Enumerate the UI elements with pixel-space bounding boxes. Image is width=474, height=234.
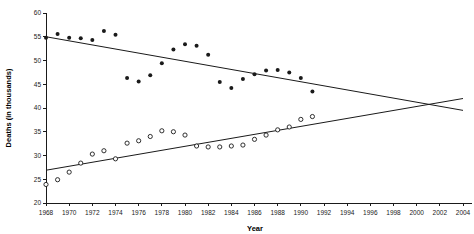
data-point-filled-circles-upper <box>148 73 152 77</box>
x-tick-label: 1998 <box>386 209 401 216</box>
data-point-open-circles-lower <box>160 129 164 133</box>
scatter-plot-svg: 202530354045505560 196819701972197419761… <box>0 0 474 234</box>
y-axis-title: Deaths (in thousands) <box>4 68 13 147</box>
x-tick-label: 1980 <box>178 209 193 216</box>
x-tick-label: 1976 <box>131 209 146 216</box>
data-point-filled-circles-upper <box>160 61 164 65</box>
y-tick-label: 55 <box>34 33 42 40</box>
data-point-filled-circles-upper <box>102 29 106 33</box>
y-tick-label: 30 <box>34 152 42 159</box>
data-point-filled-circles-upper <box>171 48 175 52</box>
data-point-filled-circles-upper <box>125 76 129 80</box>
y-tick-label: 40 <box>34 104 42 111</box>
data-point-filled-circles-upper <box>195 44 199 48</box>
y-tick-label: 35 <box>34 128 42 135</box>
y-tick-label: 45 <box>34 81 42 88</box>
y-tick-label: 60 <box>34 9 42 16</box>
data-point-open-circles-lower <box>171 130 175 134</box>
data-point-filled-circles-upper <box>56 32 60 36</box>
data-point-filled-circles-upper <box>287 70 291 74</box>
x-tick-label: 1988 <box>270 209 285 216</box>
x-tick-label: 1996 <box>363 209 378 216</box>
data-point-filled-circles-upper <box>90 38 94 42</box>
data-point-open-circles-lower <box>148 134 152 138</box>
x-tick-label: 1984 <box>224 209 239 216</box>
x-tick-label: 1994 <box>340 209 355 216</box>
data-point-open-circles-lower <box>137 139 141 143</box>
chart-container: 202530354045505560 196819701972197419761… <box>0 0 474 234</box>
trend-line-open-circles-lower <box>46 99 463 171</box>
data-point-filled-circles-upper <box>79 36 83 40</box>
x-tick-label: 1982 <box>201 209 216 216</box>
x-tick-label: 2002 <box>433 209 448 216</box>
x-tick-label: 1970 <box>62 209 77 216</box>
x-axis-title: Year <box>247 224 263 233</box>
data-point-filled-circles-upper <box>114 33 118 37</box>
data-point-filled-circles-upper <box>264 68 268 72</box>
y-tick-label: 20 <box>34 199 42 206</box>
x-tick-label: 2004 <box>456 209 471 216</box>
x-tick-label: 1972 <box>85 209 100 216</box>
y-tick-label: 50 <box>34 57 42 64</box>
data-point-open-circles-lower <box>183 133 187 137</box>
data-point-open-circles-lower <box>194 144 198 148</box>
data-point-open-circles-lower <box>102 149 106 153</box>
data-point-filled-circles-upper <box>44 36 48 40</box>
data-point-open-circles-lower <box>79 161 83 165</box>
data-point-filled-circles-upper <box>310 89 314 93</box>
x-tick-label: 2000 <box>409 209 424 216</box>
data-point-open-circles-lower <box>276 128 280 132</box>
x-tick-label: 1992 <box>317 209 332 216</box>
x-tick-label: 1974 <box>108 209 123 216</box>
x-axis: 1968197019721974197619781980198219841986… <box>39 203 472 216</box>
y-axis: 202530354045505560 <box>34 9 46 206</box>
data-point-open-circles-lower <box>218 145 222 149</box>
data-point-open-circles-lower <box>55 178 59 182</box>
data-point-open-circles-lower <box>264 133 268 137</box>
data-point-open-circles-lower <box>229 144 233 148</box>
x-tick-label: 1978 <box>155 209 170 216</box>
data-point-open-circles-lower <box>252 137 256 141</box>
data-point-filled-circles-upper <box>229 86 233 90</box>
x-tick-label: 1968 <box>39 209 54 216</box>
data-point-open-circles-lower <box>310 114 314 118</box>
data-point-open-circles-lower <box>67 170 71 174</box>
data-point-open-circles-lower <box>241 143 245 147</box>
data-points <box>44 29 315 187</box>
x-tick-label: 1986 <box>247 209 262 216</box>
data-point-open-circles-lower <box>287 125 291 129</box>
x-tick-label: 1990 <box>294 209 309 216</box>
data-point-open-circles-lower <box>125 141 129 145</box>
data-point-open-circles-lower <box>90 152 94 156</box>
y-tick-label: 25 <box>34 176 42 183</box>
data-point-filled-circles-upper <box>183 42 187 46</box>
data-point-open-circles-lower <box>113 157 117 161</box>
data-point-filled-circles-upper <box>218 80 222 84</box>
data-point-filled-circles-upper <box>253 72 257 76</box>
data-point-filled-circles-upper <box>206 53 210 57</box>
data-point-filled-circles-upper <box>241 77 245 81</box>
data-point-filled-circles-upper <box>276 68 280 72</box>
data-point-open-circles-lower <box>44 182 48 186</box>
data-point-filled-circles-upper <box>299 76 303 80</box>
data-point-filled-circles-upper <box>67 36 71 40</box>
data-point-open-circles-lower <box>299 117 303 121</box>
data-point-open-circles-lower <box>206 145 210 149</box>
trend-lines <box>46 37 463 170</box>
data-point-filled-circles-upper <box>137 79 141 83</box>
